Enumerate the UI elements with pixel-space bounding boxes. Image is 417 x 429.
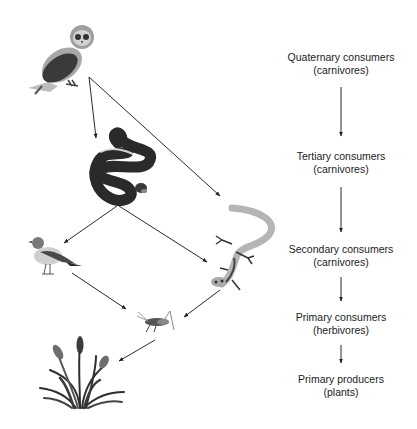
level-title: Tertiary consumers (281, 150, 401, 163)
arrow-grasshopper-to-plants (119, 340, 155, 361)
level-primary-producers: Primary producers (plants) (281, 373, 401, 399)
plants-icon (40, 336, 124, 408)
arrow-owl-to-snake (89, 77, 96, 138)
owl-icon (28, 25, 94, 94)
level-title: Quaternary consumers (281, 51, 401, 64)
level-subtitle: (herbivores) (281, 324, 401, 337)
snake-icon (95, 133, 151, 200)
bird-icon (28, 237, 82, 274)
level-title: Primary producers (281, 373, 401, 386)
level-title: Primary consumers (281, 311, 401, 324)
level-subtitle: (carnivores) (281, 64, 401, 77)
arrow-bird-to-grasshopper (72, 273, 126, 309)
level-primary-consumers: Primary consumers (herbivores) (281, 311, 401, 337)
lizard-icon (211, 208, 272, 290)
level-subtitle: (plants) (281, 386, 401, 399)
level-tertiary-consumers: Tertiary consumers (carnivores) (281, 150, 401, 176)
level-subtitle: (carnivores) (281, 163, 401, 176)
level-secondary-consumers: Secondary consumers (carnivores) (281, 243, 401, 269)
arrow-lizard-to-grasshopper (184, 290, 220, 317)
arrow-snake-to-lizard (119, 206, 207, 262)
arrow-snake-to-bird (64, 206, 117, 243)
level-title: Secondary consumers (281, 243, 401, 256)
level-subtitle: (carnivores) (281, 256, 401, 269)
level-quaternary-consumers: Quaternary consumers (carnivores) (281, 51, 401, 77)
grasshopper-icon (137, 311, 174, 332)
